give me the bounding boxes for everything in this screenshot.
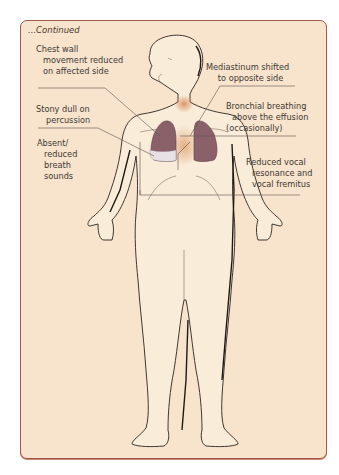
annotation-line: Reduced vocal xyxy=(246,157,312,168)
annotation-line: movement reduced xyxy=(36,55,123,66)
annotation-mediastinum: Mediastinum shifted to opposite side xyxy=(206,62,289,84)
annotation-line: percussion xyxy=(36,115,90,126)
annotation-line: reduced xyxy=(37,149,77,160)
annotation-line: Chest wall xyxy=(36,44,123,55)
annotation-line: Stony dull on xyxy=(36,104,90,115)
neck-glow xyxy=(174,95,194,113)
annotation-breath-sounds: Absent/ reduced breath sounds xyxy=(37,138,77,182)
annotation-line: breath xyxy=(37,160,77,171)
annotation-bronchial-breathing: Bronchial breathing above the effusion (… xyxy=(226,101,308,134)
continued-label: ...Continued xyxy=(28,25,80,35)
annotation-line: Mediastinum shifted xyxy=(206,62,289,73)
annotation-vocal-resonance: Reduced vocal resonance and vocal fremit… xyxy=(246,157,312,190)
annotation-line: on affected side xyxy=(36,66,123,77)
annotation-line: resonance and xyxy=(246,168,312,179)
annotation-chest-wall: Chest wall movement reduced on affected … xyxy=(36,44,123,77)
annotation-line: Bronchial breathing xyxy=(226,101,308,112)
annotation-line: to opposite side xyxy=(206,73,289,84)
annotation-line: above the effusion xyxy=(226,112,308,123)
annotation-line: Absent/ xyxy=(37,138,77,149)
annotation-line: vocal fremitus xyxy=(246,179,312,190)
annotation-stony-dull: Stony dull on percussion xyxy=(36,104,90,126)
annotation-line: sounds xyxy=(37,171,77,182)
annotation-line: (occasionally) xyxy=(226,123,308,134)
